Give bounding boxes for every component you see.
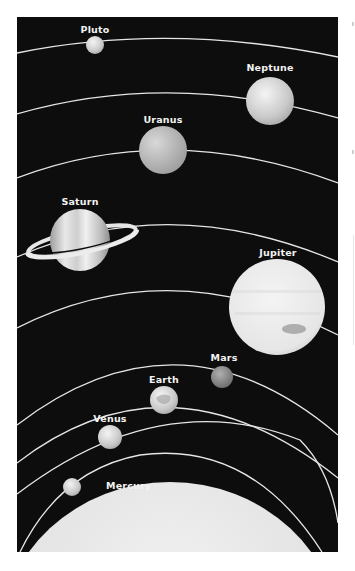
planet-neptune (246, 77, 294, 125)
planet-saturn (26, 209, 138, 271)
label-uranus: Uranus (143, 114, 182, 125)
label-mercury: Mercury (106, 480, 151, 491)
planet-mars (211, 366, 233, 388)
planet-venus (98, 425, 122, 449)
orbit-pluto (17, 38, 338, 57)
label-saturn: Saturn (61, 196, 98, 207)
orbits-and-planets (17, 17, 338, 552)
planet-mercury (63, 478, 81, 496)
solar-system-diagram: Pluto Neptune Uranus Saturn Jupiter Mars… (17, 17, 338, 552)
label-pluto: Pluto (80, 24, 109, 35)
label-jupiter: Jupiter (259, 247, 296, 258)
label-earth: Earth (149, 374, 179, 385)
edge-mark (352, 22, 354, 26)
planet-uranus (139, 126, 187, 174)
label-neptune: Neptune (246, 62, 293, 73)
edge-rule (353, 235, 354, 345)
label-venus: Venus (93, 413, 126, 424)
edge-mark (352, 150, 354, 154)
planet-earth (150, 386, 178, 414)
label-mars: Mars (210, 352, 237, 363)
orbit-earth (17, 408, 338, 478)
planet-jupiter (229, 259, 325, 355)
planet-pluto (86, 36, 104, 54)
